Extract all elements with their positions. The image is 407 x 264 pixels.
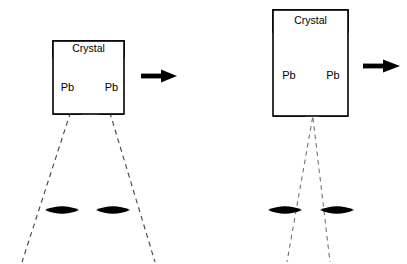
pb-label-left: Pb [282, 69, 295, 81]
crystal-label: Crystal [294, 14, 327, 26]
pb-label-left: Pb [61, 81, 74, 93]
pb-label-right: Pb [105, 81, 118, 93]
diagram-svg: Crystal Pb Pb Crystal Pb Pb [0, 0, 407, 264]
crystal-label: Crystal [72, 42, 105, 54]
pb-label-right: Pb [326, 69, 339, 81]
crystal-assembly-outline [273, 10, 348, 116]
diagram-canvas: Crystal Pb Pb Crystal Pb Pb [0, 0, 407, 264]
